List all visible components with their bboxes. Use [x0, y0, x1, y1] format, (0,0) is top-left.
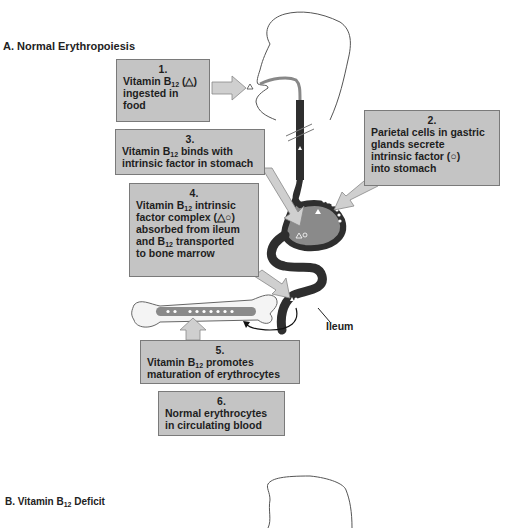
- step-number: 3.: [122, 133, 258, 145]
- step-2-box: 2. Parietal cells in gastric glands secr…: [364, 110, 500, 186]
- step-6-box: 6. Normal erythrocytes in circulating bl…: [158, 391, 285, 436]
- step-number: 1.: [123, 63, 203, 75]
- b12-food-triangle: [247, 84, 253, 89]
- step-3-box: 3. Vitamin B12 binds with intrinsic fact…: [115, 129, 265, 175]
- arrow-4-to-ileum: [254, 270, 290, 298]
- step-1-box: 1. Vitamin B12 (△) ingested in food: [116, 59, 210, 122]
- step-number: 4.: [136, 187, 252, 199]
- section-b-title: B. Vitamin B12 Deficit: [5, 496, 105, 507]
- arrow-1-to-mouth: [212, 76, 246, 100]
- step-5-box: 5. Vitamin B12 promotes maturation of er…: [140, 340, 300, 384]
- step-number: 6.: [165, 395, 278, 407]
- head-outline: [267, 12, 351, 120]
- step-number: 5.: [147, 344, 293, 356]
- step-number: 2.: [371, 114, 493, 126]
- head-outline-b: [267, 476, 352, 528]
- step-4-box: 4. Vitamin B12 intrinsic factor complex …: [129, 183, 259, 277]
- esophagus: [296, 100, 304, 180]
- bone-marrow: [156, 307, 256, 316]
- ileum-label: Ileum: [326, 320, 353, 332]
